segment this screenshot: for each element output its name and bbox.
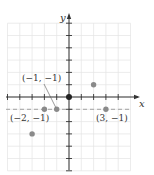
data-point (103, 107, 108, 112)
y-axis-label: y (59, 12, 66, 23)
y-axis-arrow-icon (67, 13, 71, 19)
data-point (29, 131, 34, 136)
x-axis-label: x (139, 98, 145, 109)
coordinate-plane: (3, −1)(−1, −1)(−2, −1) x y (0, 0, 154, 175)
data-point (54, 107, 59, 112)
data-point (91, 82, 96, 87)
data-point (66, 94, 72, 100)
point-label: (−1, −1) (22, 73, 61, 83)
leader-line (44, 84, 56, 107)
point-label: (−2, −1) (10, 113, 49, 123)
data-point (42, 107, 47, 112)
point-label: (3, −1) (96, 113, 128, 123)
